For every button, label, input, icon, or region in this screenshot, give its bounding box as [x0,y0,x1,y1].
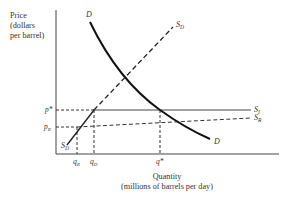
supply-demand-diagram: Price (dollars per barrel) D D SD SD SI … [0,0,288,197]
label-s-d-top: SD [176,20,184,30]
x-axis-label-line2: (millions of barrels per day) [121,182,213,191]
x-axis-label-line1: Quantity [153,172,183,181]
tick-q-r: qR [73,157,80,167]
tick-p-r: pR [43,122,51,132]
label-d-top: D [85,10,92,19]
tick-q-star: q* [156,157,164,166]
y-axis-label-line2: (dollars [10,21,35,30]
label-d-bottom: D [213,137,220,146]
curve-demand [90,22,210,139]
tick-p-star: p* [44,105,53,114]
curve-s-r [77,118,251,127]
curve-s-d-upper [94,27,173,110]
y-axis-label-line1: Price [10,11,27,20]
tick-q-d: qD [90,157,98,167]
label-s-d-bottom: SD [61,141,69,151]
y-axis-label-line3: per barrel) [10,31,45,40]
